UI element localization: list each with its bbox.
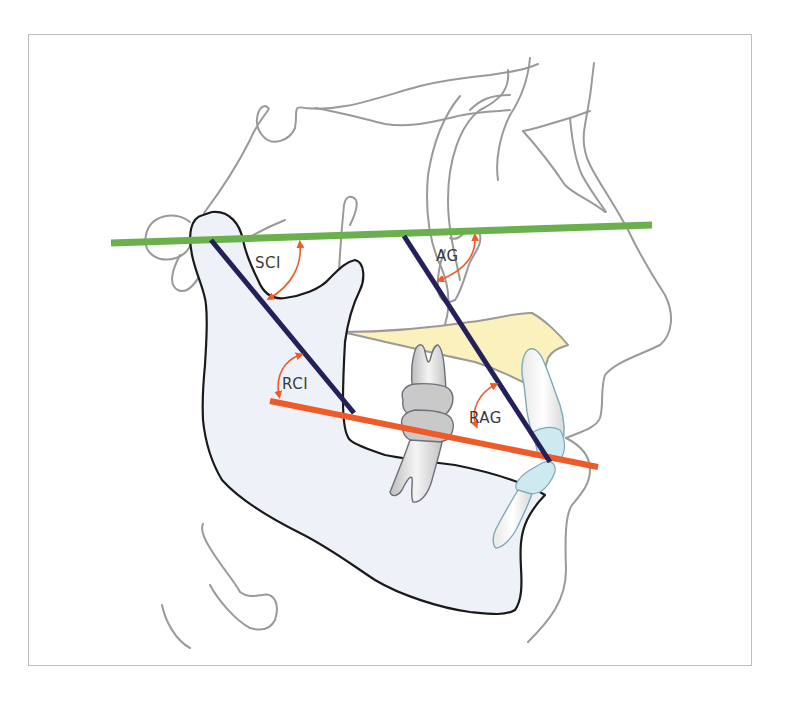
sci-label: SCI bbox=[255, 256, 281, 271]
ag-label: AG bbox=[436, 249, 459, 264]
cephalometric-diagram bbox=[0, 0, 792, 702]
rag-label: RAG bbox=[469, 411, 502, 426]
rci-label: RCI bbox=[282, 377, 308, 392]
upper-incisor bbox=[522, 349, 565, 461]
